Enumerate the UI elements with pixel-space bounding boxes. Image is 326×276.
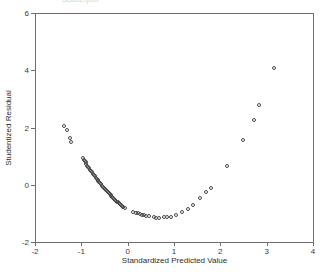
x-tick-mark — [267, 242, 268, 246]
y-tick-label: -2 — [22, 238, 29, 247]
y-tick-mark — [31, 70, 35, 71]
plot-frame-right — [313, 13, 314, 243]
x-tick-mark — [313, 242, 314, 246]
x-tick-mark — [220, 242, 221, 246]
data-point — [272, 66, 276, 70]
clipped-title-fragment: Scatterplot — [62, 0, 122, 4]
x-tick-mark — [174, 242, 175, 246]
data-point — [65, 128, 69, 132]
x-tick-mark — [81, 242, 82, 246]
data-point — [147, 214, 151, 218]
x-tick-label: 0 — [125, 247, 129, 256]
x-tick-label: 1 — [172, 247, 176, 256]
data-point — [241, 138, 245, 142]
data-point — [186, 207, 190, 211]
data-point — [225, 164, 229, 168]
y-tick-mark — [31, 13, 35, 14]
x-tick-mark — [35, 242, 36, 246]
y-tick-label: 2 — [25, 123, 29, 132]
data-point — [165, 215, 169, 219]
plot-frame-top — [35, 13, 314, 14]
x-tick-label: -1 — [78, 247, 85, 256]
y-axis-spine — [35, 13, 36, 243]
data-point — [174, 213, 178, 217]
data-point — [169, 215, 173, 219]
y-tick-mark — [31, 128, 35, 129]
data-point — [198, 196, 202, 200]
x-tick-label: 2 — [218, 247, 222, 256]
plot-area: -20246 -2-101234 — [35, 13, 314, 243]
data-point — [157, 216, 161, 220]
data-point — [209, 186, 213, 190]
x-tick-label: -2 — [31, 247, 38, 256]
data-point — [123, 206, 127, 210]
y-tick-mark — [31, 185, 35, 186]
data-point — [191, 203, 195, 207]
data-point — [257, 103, 261, 107]
data-point — [62, 124, 66, 128]
y-axis-title: Studentized Residual — [4, 90, 13, 166]
data-point — [180, 210, 184, 214]
x-tick-mark — [128, 242, 129, 246]
y-tick-label: 4 — [25, 66, 29, 75]
data-point — [69, 140, 73, 144]
y-tick-label: 6 — [25, 9, 29, 18]
x-tick-label: 4 — [311, 247, 315, 256]
y-tick-label: 0 — [25, 180, 29, 189]
data-point — [204, 190, 208, 194]
x-tick-label: 3 — [264, 247, 268, 256]
scatterplot-figure: Scatterplot -20246 -2-101234 Studentized… — [0, 0, 326, 276]
x-axis-title: Standardized Predicted Value — [35, 256, 314, 265]
data-point — [252, 118, 256, 122]
